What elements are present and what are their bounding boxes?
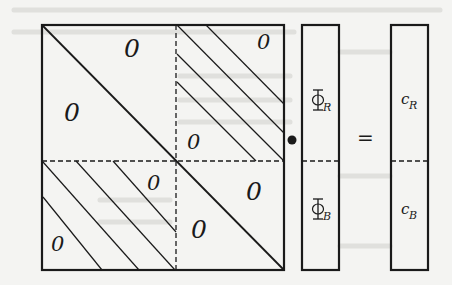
main-diagonal [43, 26, 283, 269]
zero-label-bottom-right-lower: 0 [191, 215, 207, 244]
equals-sign: = [357, 126, 374, 150]
rhs-vector: c R c B [391, 25, 428, 270]
zero-label-bottom-right-upper: 0 [246, 177, 262, 206]
phi-b-symbol: B [313, 199, 332, 223]
product-dot [288, 136, 297, 145]
zero-label-top-left-lower: 0 [64, 98, 80, 127]
zero-label-top-right-lower: 0 [187, 130, 200, 154]
phi-b-subscript: B [322, 210, 331, 223]
phi-r-symbol: R [313, 90, 332, 114]
block-matrix-diagram: 0 0 0 0 0 0 0 0 R B = [0, 0, 452, 285]
phi-r-subscript: R [322, 101, 331, 114]
c-b-subscript: B [408, 209, 417, 222]
zero-label-top-left-upper: 0 [124, 34, 140, 63]
c-r-subscript: R [408, 99, 417, 112]
matrix: 0 0 0 0 0 0 0 0 [42, 25, 284, 270]
zero-label-top-right-upper: 0 [257, 30, 270, 54]
unknown-vector: R B [302, 25, 339, 270]
zero-label-bottom-left-upper: 0 [147, 171, 160, 195]
unknown-vector-border [302, 25, 339, 270]
rhs-vector-border [391, 25, 428, 270]
zero-label-bottom-left-lower: 0 [51, 232, 64, 256]
